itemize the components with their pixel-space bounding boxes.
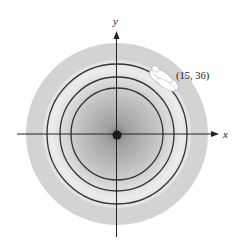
y-axis-label: y	[112, 15, 118, 27]
point-label: (15, 36)	[176, 70, 210, 82]
x-axis-arrow-icon	[211, 131, 219, 137]
origin-dot	[113, 131, 122, 140]
y-axis-arrow-icon	[114, 31, 120, 39]
contour-diagram: y x (15, 36)	[0, 0, 247, 245]
x-axis-label: x	[222, 128, 228, 140]
